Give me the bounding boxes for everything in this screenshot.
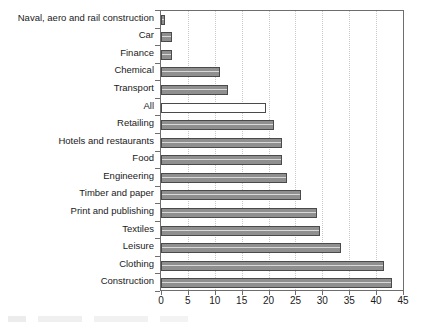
bar: [161, 278, 392, 288]
category-label: Print and publishing: [0, 206, 157, 216]
category-label: Hotels and restaurants: [0, 136, 157, 146]
bar-row: [161, 50, 405, 60]
bar-row: [161, 261, 405, 271]
category-tick: [155, 291, 160, 292]
category-label: Chemical: [0, 65, 157, 75]
category-label: Construction: [0, 276, 157, 286]
bar-row: [161, 67, 405, 77]
bar-row: [161, 226, 405, 236]
bar: [161, 243, 341, 253]
category-label: Retailing: [0, 118, 157, 128]
bar: [161, 208, 317, 218]
bar: [161, 50, 172, 60]
bar: [161, 120, 274, 130]
bar-chart: Naval, aero and rail constructionCarFina…: [0, 0, 426, 324]
category-label: Naval, aero and rail construction: [0, 13, 157, 23]
value-tick-label: 35: [334, 296, 364, 306]
category-label: Leisure: [0, 241, 157, 251]
category-label: Clothing: [0, 259, 157, 269]
bar: [161, 85, 228, 95]
bar: [161, 155, 282, 165]
bar-row: [161, 138, 405, 148]
bar: [161, 15, 165, 25]
bars-layer: [161, 11, 403, 290]
value-tick-label: 25: [280, 296, 310, 306]
value-tick-label: 40: [361, 296, 391, 306]
value-tick-label: 30: [307, 296, 337, 306]
page-caption-fragment: [8, 316, 188, 322]
bar-row: [161, 85, 405, 95]
bar: [161, 103, 266, 113]
category-label: Textiles: [0, 224, 157, 234]
bar-row: [161, 208, 405, 218]
bar: [161, 67, 220, 77]
plot-area: [160, 10, 404, 291]
value-tick-label: 45: [388, 296, 418, 306]
bar-row: [161, 103, 405, 113]
bar-row: [161, 15, 405, 25]
category-label: Engineering: [0, 171, 157, 181]
value-tick-label: 15: [227, 296, 257, 306]
value-tick-label: 5: [173, 296, 203, 306]
bar-row: [161, 243, 405, 253]
bar-row: [161, 173, 405, 183]
bar-row: [161, 278, 405, 288]
bar: [161, 32, 172, 42]
bar-row: [161, 32, 405, 42]
bar: [161, 138, 282, 148]
value-tick-label: 10: [200, 296, 230, 306]
value-tick-label: 0: [146, 296, 176, 306]
category-label: Finance: [0, 48, 157, 58]
value-tick-label: 20: [254, 296, 284, 306]
bar-row: [161, 120, 405, 130]
bar: [161, 226, 320, 236]
bar: [161, 261, 384, 271]
category-label: Car: [0, 30, 157, 40]
bar-row: [161, 155, 405, 165]
category-label: All: [0, 101, 157, 111]
bar-row: [161, 190, 405, 200]
category-label: Transport: [0, 83, 157, 93]
bar: [161, 173, 287, 183]
category-label: Food: [0, 153, 157, 163]
category-label: Timber and paper: [0, 188, 157, 198]
bar: [161, 190, 301, 200]
